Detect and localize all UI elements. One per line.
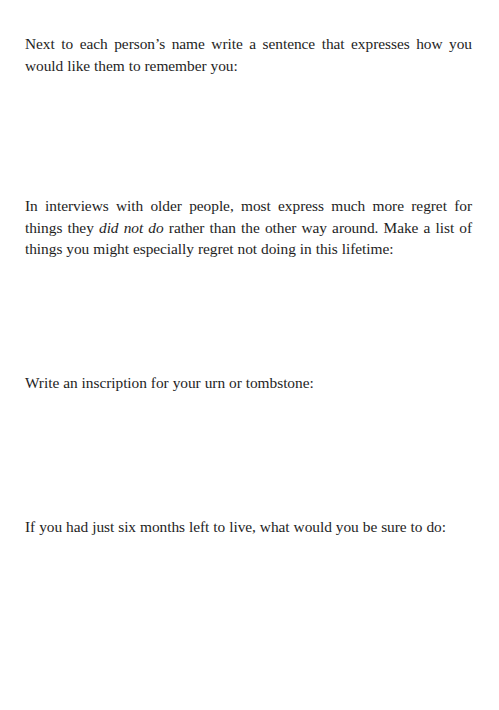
answer-space-remember-me[interactable] bbox=[25, 80, 472, 190]
prompt-inscription: Write an inscription for your urn or tom… bbox=[25, 372, 472, 394]
answer-space-inscription[interactable] bbox=[25, 398, 472, 508]
prompt-text: If you had just six months left to live,… bbox=[25, 518, 446, 535]
prompt-regrets: In interviews with older people, most ex… bbox=[25, 195, 472, 260]
prompt-text: Write an inscription for your urn or tom… bbox=[25, 374, 314, 391]
prompt-remember-me: Next to each person’s name write a sente… bbox=[25, 33, 472, 76]
answer-space-regrets[interactable] bbox=[25, 265, 472, 365]
answer-space-six-months[interactable] bbox=[25, 542, 472, 702]
prompt-text-emphasis: did not do bbox=[99, 219, 164, 236]
prompt-six-months: If you had just six months left to live,… bbox=[25, 516, 472, 538]
prompt-text: Next to each person’s name write a sente… bbox=[25, 35, 472, 74]
